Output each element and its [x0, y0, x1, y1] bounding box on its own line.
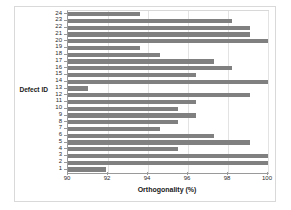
bar	[68, 120, 178, 124]
bar	[68, 86, 88, 90]
bar-row	[68, 146, 268, 153]
bar	[68, 39, 268, 43]
chart-figure: Defect ID 123456789101112131415161718192…	[0, 0, 291, 210]
bar	[68, 53, 160, 57]
y-tick-label: 4	[48, 145, 62, 152]
bar-row	[68, 85, 268, 92]
x-gridline	[268, 11, 269, 173]
bar-row	[68, 45, 268, 52]
bar-row	[68, 160, 268, 167]
y-tick-mark	[64, 27, 67, 28]
bar	[68, 147, 178, 151]
y-tick-label: 14	[48, 77, 62, 84]
y-tick-mark	[64, 142, 67, 143]
y-tick-mark	[64, 148, 67, 149]
x-tick-mark	[267, 172, 268, 175]
y-tick-label: 6	[48, 131, 62, 138]
y-tick-label: 11	[48, 97, 62, 104]
bar	[68, 134, 214, 138]
bar	[68, 26, 250, 30]
x-tick-label: 96	[177, 175, 197, 181]
y-tick-label: 9	[48, 111, 62, 118]
bar	[68, 127, 160, 131]
y-tick-label: 2	[48, 158, 62, 165]
bar-row	[68, 133, 268, 140]
x-tick-mark	[107, 172, 108, 175]
bar-row	[68, 18, 268, 25]
y-tick-mark	[64, 88, 67, 89]
y-tick-label: 19	[48, 43, 62, 50]
y-tick-mark	[64, 67, 67, 68]
x-tick-label: 98	[217, 175, 237, 181]
y-tick-mark	[64, 121, 67, 122]
bar	[68, 19, 232, 23]
y-tick-label: 18	[48, 50, 62, 57]
bar-row	[68, 99, 268, 106]
y-tick-mark	[64, 74, 67, 75]
y-tick-label: 10	[48, 104, 62, 111]
y-tick-mark	[64, 94, 67, 95]
y-tick-label: 7	[48, 124, 62, 131]
y-tick-label: 3	[48, 151, 62, 158]
y-tick-mark	[64, 128, 67, 129]
x-tick-label: 94	[137, 175, 157, 181]
bar-row	[68, 31, 268, 38]
bar	[68, 161, 268, 165]
bar-row	[68, 11, 268, 18]
x-axis-tick-labels: 9092949698100	[67, 175, 267, 185]
bar-row	[68, 112, 268, 119]
bar	[68, 93, 250, 97]
bar-row	[68, 25, 268, 32]
x-tick-mark	[67, 172, 68, 175]
y-tick-label: 16	[48, 64, 62, 71]
plot-area	[67, 10, 269, 174]
bar-row	[68, 65, 268, 72]
bar	[68, 66, 232, 70]
y-tick-mark	[64, 54, 67, 55]
x-axis-title: Orthogonality (%)	[67, 186, 267, 193]
bar-row	[68, 153, 268, 160]
bar	[68, 46, 140, 50]
bar-row	[68, 119, 268, 126]
bar-row	[68, 38, 268, 45]
y-axis-title: Defect ID	[6, 86, 48, 94]
x-tick-mark	[187, 172, 188, 175]
y-tick-label: 24	[48, 10, 62, 17]
bar	[68, 100, 196, 104]
y-tick-label: 12	[48, 91, 62, 98]
bar	[68, 113, 196, 117]
y-tick-mark	[64, 47, 67, 48]
bar-row	[68, 58, 268, 65]
x-tick-mark	[227, 172, 228, 175]
bar	[68, 59, 214, 63]
y-tick-mark	[64, 169, 67, 170]
bar	[68, 107, 178, 111]
y-tick-label: 22	[48, 23, 62, 30]
bar	[68, 154, 268, 158]
bar-row	[68, 72, 268, 79]
y-tick-mark	[64, 61, 67, 62]
x-tick-label: 100	[257, 175, 277, 181]
y-tick-mark	[64, 81, 67, 82]
y-tick-mark	[64, 135, 67, 136]
bar-row	[68, 92, 268, 99]
x-tick-mark	[147, 172, 148, 175]
y-tick-mark	[64, 155, 67, 156]
y-tick-label: 5	[48, 138, 62, 145]
x-tick-label: 92	[97, 175, 117, 181]
bar-row	[68, 139, 268, 146]
y-tick-label: 13	[48, 84, 62, 91]
y-tick-label: 23	[48, 16, 62, 23]
bar-row	[68, 52, 268, 59]
bar	[68, 140, 250, 144]
y-tick-mark	[64, 20, 67, 21]
bar-row	[68, 79, 268, 86]
y-tick-label: 17	[48, 57, 62, 64]
bar-row	[68, 126, 268, 133]
y-tick-label: 21	[48, 30, 62, 37]
y-tick-label: 1	[48, 165, 62, 172]
bar	[68, 32, 250, 36]
y-tick-mark	[64, 115, 67, 116]
bar	[68, 80, 268, 84]
bar-row	[68, 106, 268, 113]
